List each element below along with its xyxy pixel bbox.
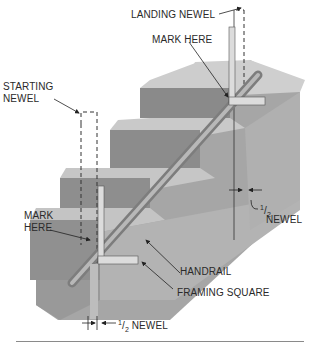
label-mark-here-left-line1: MARK [24,210,53,222]
label-half-newel-bottom: 1/2 NEWEL [118,317,168,336]
label-mark-here-left-line2: HERE [24,222,52,234]
half-newel-bottom-word: NEWEL [132,320,168,331]
fraction-numerator: 1 [118,319,122,326]
fraction-denominator: 2 [125,326,129,333]
bottom-divider [16,341,304,342]
leader-starting-newel [54,99,79,113]
label-half-newel-right-word: NEWEL [266,214,302,226]
label-handrail: HANDRAIL [180,266,231,278]
label-starting-newel-line1: STARTING [3,81,53,93]
stair-handrail-diagram [0,0,320,348]
leader-landing-newel [219,8,241,14]
label-starting-newel-line2: NEWEL [3,93,39,105]
label-mark-here-top: MARK HERE [152,34,212,46]
label-framing-square: FRAMING SQUARE [177,287,270,299]
starting-newel-base [90,264,98,319]
label-landing-newel: LANDING NEWEL [131,9,215,21]
fraction-numerator: 1 [260,204,264,211]
